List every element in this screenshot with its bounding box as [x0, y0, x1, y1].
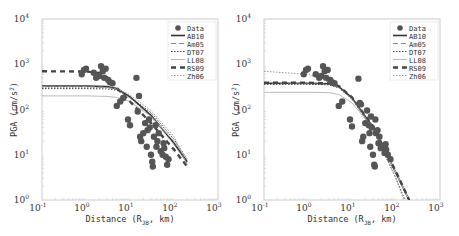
left-chart-panel: 10-1100101102103100101102103104Distance …: [8, 12, 222, 226]
data-point: [367, 144, 373, 150]
x-tick-label: 100: [296, 201, 311, 213]
legend: DataAB10Am05DT07LL08RS09Zh06: [390, 22, 438, 81]
data-point: [374, 127, 380, 133]
data-point: [146, 116, 152, 122]
legend-label: LL08: [409, 57, 426, 65]
x-tick-label: 103: [428, 201, 443, 213]
x-tick-label: 102: [162, 201, 177, 213]
legend-label: RS09: [409, 65, 426, 73]
legend-label: RS09: [187, 65, 204, 73]
data-point: [331, 80, 337, 86]
data-point: [109, 80, 115, 86]
right-chart-panel: 10-1100101102103100101102103104Distance …: [230, 12, 444, 226]
y-tick-label: 100: [14, 193, 29, 205]
y-tick-label: 101: [14, 148, 29, 160]
data-point: [364, 107, 370, 113]
legend-marker-icon: [397, 25, 403, 31]
legend-label: LL08: [187, 57, 204, 65]
data-point: [347, 116, 353, 122]
legend-label: Zh06: [409, 73, 426, 81]
x-tick-label: 10-1: [251, 201, 268, 213]
series-line-zh06: [42, 87, 187, 165]
legend: DataAB10Am05DT07LL08RS09Zh06: [168, 22, 216, 81]
x-tick-label: 101: [340, 201, 355, 213]
data-point: [144, 144, 150, 150]
x-tick-label: 103: [206, 201, 221, 213]
data-point: [349, 123, 355, 129]
series-line-rs09: [264, 83, 409, 200]
y-axis-label: PGA (cm/s2): [8, 82, 19, 137]
data-point: [138, 138, 144, 144]
data-point: [127, 122, 133, 128]
legend-label: Data: [187, 25, 204, 33]
y-tick-label: 103: [14, 57, 29, 69]
data-point: [165, 156, 171, 162]
y-tick-label: 104: [14, 12, 29, 24]
series-line-zh06: [264, 71, 404, 200]
legend-label: Am05: [409, 41, 426, 49]
data-point: [339, 98, 345, 104]
data-point: [83, 65, 89, 71]
x-tick-label: 102: [384, 201, 399, 213]
data-point: [150, 163, 156, 169]
y-tick-label: 100: [236, 193, 251, 205]
series-line-ab10: [264, 83, 409, 200]
x-axis-label: Distance (RJB, km): [85, 214, 174, 226]
x-tick-label: 101: [118, 201, 133, 213]
data-point: [355, 75, 361, 81]
data-point: [154, 138, 160, 144]
figure: 10-1100101102103100101102103104Distance …: [0, 0, 459, 236]
legend-label: DT07: [409, 49, 426, 57]
x-tick-label: 100: [74, 201, 89, 213]
legend-label: DT07: [187, 49, 204, 57]
x-axis-label: Distance (RJB, km): [307, 214, 396, 226]
data-point: [120, 95, 126, 101]
data-point: [324, 67, 330, 73]
data-point: [102, 65, 108, 71]
legend-label: Data: [409, 25, 426, 33]
data-point: [358, 101, 364, 107]
data-point: [125, 116, 131, 122]
legend-label: Zh06: [187, 73, 204, 81]
legend-marker-icon: [175, 25, 181, 31]
legend-label: Am05: [187, 41, 204, 49]
data-point: [372, 163, 378, 169]
data-point: [376, 134, 382, 140]
data-point: [152, 122, 158, 128]
series-line-am05: [42, 87, 187, 164]
data-point: [360, 134, 366, 140]
data-point: [370, 152, 376, 158]
legend-label: AB10: [409, 33, 426, 41]
data-point: [156, 130, 162, 136]
y-tick-label: 101: [236, 148, 251, 160]
data-point: [135, 108, 141, 114]
data-point: [368, 124, 374, 130]
y-axis-label: PGA (cm/s2): [230, 82, 241, 137]
y-tick-label: 104: [236, 12, 251, 24]
legend-label: AB10: [187, 33, 204, 41]
data-point: [161, 145, 167, 151]
y-tick-label: 103: [236, 57, 251, 69]
data-point: [164, 162, 170, 168]
data-point: [148, 152, 154, 158]
data-point: [372, 116, 378, 122]
data-point: [136, 93, 142, 99]
data-point: [387, 156, 393, 162]
data-point: [133, 75, 139, 81]
data-point: [366, 130, 372, 136]
data-point: [305, 65, 311, 71]
x-tick-label: 10-1: [29, 201, 46, 213]
data-point: [146, 124, 152, 130]
